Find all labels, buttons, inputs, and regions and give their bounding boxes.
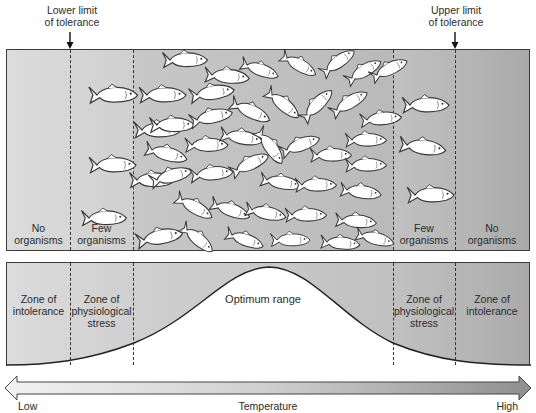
axis-high-label: High — [478, 400, 518, 412]
axis-low-label: Low — [18, 400, 58, 412]
axis-title: Temperature — [218, 400, 318, 412]
temperature-axis-arrow-icon — [0, 0, 536, 413]
